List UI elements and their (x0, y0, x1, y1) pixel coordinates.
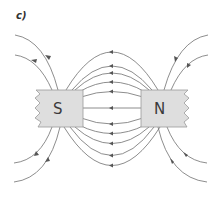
field-arrows-center (109, 50, 113, 168)
magnet-south: S (35, 90, 83, 127)
magnet-north: N (141, 90, 189, 127)
pole-label-north: N (154, 100, 165, 118)
pole-label-south: S (53, 100, 63, 118)
magnetic-field-diagram: S N (0, 0, 219, 205)
